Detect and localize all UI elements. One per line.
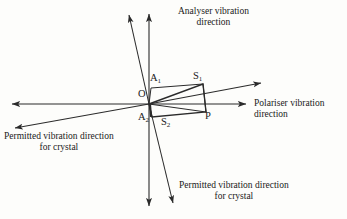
point-label-a1-subscript: 1 xyxy=(158,77,162,85)
point-label-a2-subscript: 2 xyxy=(146,116,150,124)
polarisation-vector-diagram: Analyser vibrationdirection Polariser vi… xyxy=(0,0,347,219)
caption-polariser-vibration-direction: Polariser vibrationdirection xyxy=(254,98,324,119)
point-label-a2-base: A xyxy=(138,111,146,122)
caption-crystal-vibration-direction-left: Permitted vibration directionfor crystal xyxy=(4,131,114,152)
point-label-s1-base: S xyxy=(193,70,199,81)
caption-analyser-vibration-direction: Analyser vibrationdirection xyxy=(178,6,249,27)
point-label-s2-base: S xyxy=(161,116,167,127)
point-label-a1-base: A xyxy=(150,72,158,83)
point-label-a1: A1 xyxy=(150,72,161,84)
point-label-s2-subscript: 2 xyxy=(167,121,171,129)
point-label-s2: S2 xyxy=(161,116,170,128)
point-label-a2: A2 xyxy=(138,111,149,123)
point-label-s1: S1 xyxy=(193,70,202,82)
parallelogram-o-s1-p-s2 xyxy=(149,84,206,117)
caption-crystal-vibration-direction-bottom: Permitted vibration directionfor crystal xyxy=(179,180,289,201)
point-label-o: O xyxy=(138,88,146,100)
segment-o-a2 xyxy=(150,104,151,117)
point-label-s1-subscript: 1 xyxy=(199,75,203,83)
rectangle-o-a1-s1-p xyxy=(149,84,206,112)
point-label-p: P xyxy=(205,110,211,122)
